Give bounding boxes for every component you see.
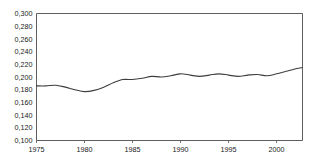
x-axis-tick-labels: 197519801985199019952000 xyxy=(29,145,285,154)
x-tick-label: 1975 xyxy=(29,145,45,154)
chart-container: 0,3000,2800,2600,2400,2200,2000,1800,160… xyxy=(0,0,313,159)
y-tick-label: 0,260 xyxy=(15,35,33,44)
y-tick-label: 0,300 xyxy=(15,9,33,18)
y-tick-label: 0,160 xyxy=(15,98,33,107)
y-axis-tick-labels: 0,3000,2800,2600,2400,2200,2000,1800,160… xyxy=(15,9,33,145)
x-tick-label: 1980 xyxy=(77,145,93,154)
x-tick-label: 1990 xyxy=(173,145,189,154)
x-tick-label: 1985 xyxy=(125,145,141,154)
y-tick-label: 0,180 xyxy=(15,85,33,94)
x-tick-label: 1995 xyxy=(221,145,237,154)
y-tick-label: 0,280 xyxy=(15,22,33,31)
y-tick-label: 0,240 xyxy=(15,47,33,56)
plot-frame xyxy=(37,14,303,141)
y-tick-label: 0,120 xyxy=(15,123,33,132)
y-tick-label: 0,200 xyxy=(15,73,33,82)
line-chart: 0,3000,2800,2600,2400,2200,2000,1800,160… xyxy=(0,0,313,159)
y-tick-label: 0,140 xyxy=(15,111,33,120)
data-series-line xyxy=(37,67,303,91)
x-tick-label: 2000 xyxy=(269,145,285,154)
y-tick-label: 0,220 xyxy=(15,60,33,69)
